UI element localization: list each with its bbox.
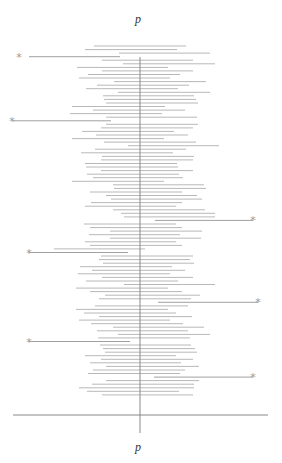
asterisk-icon: *: [9, 115, 15, 128]
asterisk-icon: *: [255, 296, 261, 309]
asterisk-icon: *: [26, 336, 32, 349]
interval-bars: [12, 46, 258, 395]
bottom-axis-label: p: [135, 440, 141, 455]
asterisk-icon: *: [26, 247, 32, 260]
caterpillar-plot: *******: [0, 0, 282, 463]
asterisk-icon: *: [250, 214, 256, 227]
asterisk-icon: *: [16, 51, 22, 64]
top-axis-label: p: [135, 12, 141, 27]
asterisk-icon: *: [250, 371, 256, 384]
